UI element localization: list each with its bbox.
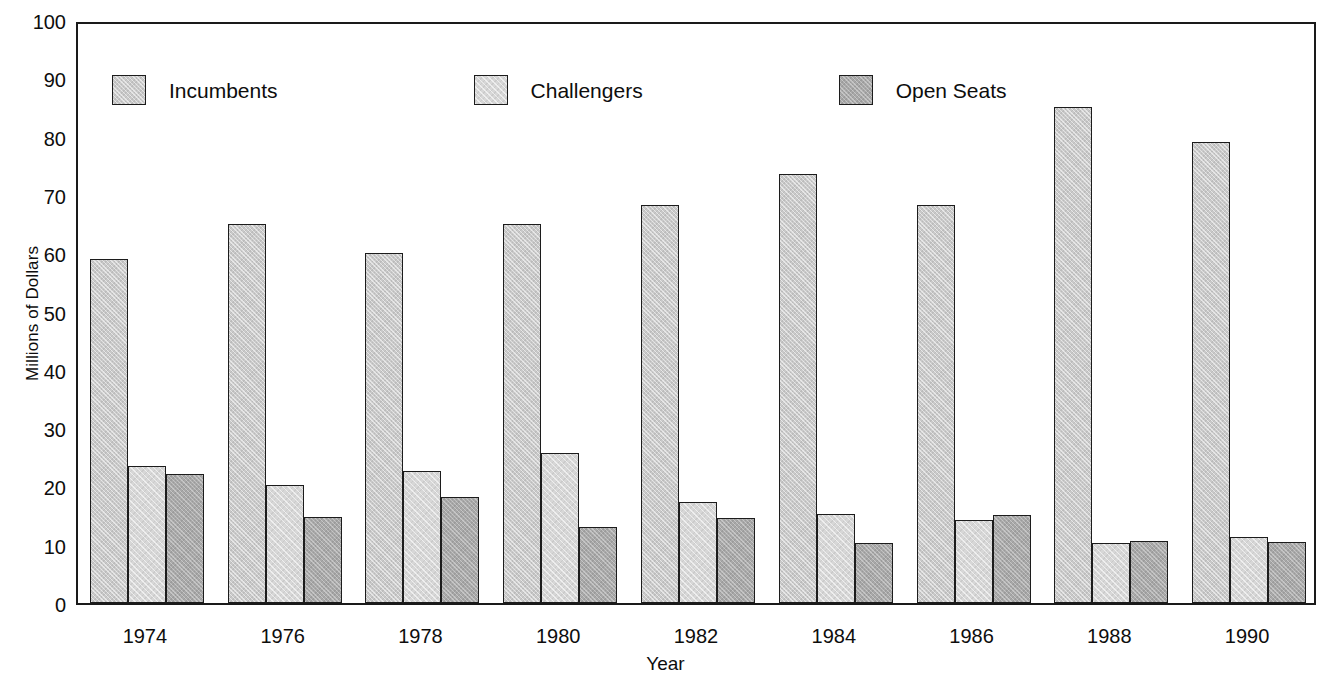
bar-incumbents-1986[interactable] (917, 205, 955, 603)
bar-group (1180, 24, 1318, 603)
bar-open-seats-1980[interactable] (579, 527, 617, 603)
bar-incumbents-1982[interactable] (641, 205, 679, 603)
x-tick-label: 1982 (674, 623, 719, 649)
bar-incumbents-1988[interactable] (1054, 107, 1092, 603)
bar-open-seats-1984[interactable] (855, 543, 893, 603)
y-tick-label: 80 (10, 129, 66, 149)
bar-challengers-1974[interactable] (128, 466, 166, 603)
bar-group (905, 24, 1043, 603)
bar-challengers-1980[interactable] (541, 453, 579, 603)
bar-challengers-1976[interactable] (266, 485, 304, 603)
x-tick-label: 1980 (536, 623, 581, 649)
bar-challengers-1984[interactable] (817, 514, 855, 603)
y-tick-label: 30 (10, 420, 66, 440)
x-tick-label: 1976 (260, 623, 305, 649)
x-tick-label: 1988 (1087, 623, 1132, 649)
bar-group (216, 24, 354, 603)
bar-open-seats-1982[interactable] (717, 518, 755, 603)
legend-item-challengers[interactable]: Challengers (474, 70, 643, 110)
x-axis-title: Year (0, 652, 1331, 676)
y-axis-tick-labels: 0102030405060708090100 (10, 0, 66, 682)
bar-group (78, 24, 216, 603)
y-tick-label: 50 (10, 304, 66, 324)
legend-swatch-icon (474, 75, 508, 105)
y-tick-label: 70 (10, 187, 66, 207)
bar-open-seats-1990[interactable] (1268, 542, 1306, 603)
x-tick-label: 1990 (1225, 623, 1270, 649)
bar-incumbents-1984[interactable] (779, 174, 817, 603)
bar-group (767, 24, 905, 603)
bar-group (1042, 24, 1180, 603)
bar-group (629, 24, 767, 603)
bar-challengers-1982[interactable] (679, 502, 717, 603)
x-axis-tick-labels: 197419761978198019821984198619881990 (76, 623, 1316, 653)
y-tick-label: 20 (10, 478, 66, 498)
legend-swatch-icon (112, 75, 146, 105)
legend-item-open-seats[interactable]: Open Seats (839, 70, 1007, 110)
bar-open-seats-1988[interactable] (1130, 541, 1168, 603)
bar-challengers-1990[interactable] (1230, 537, 1268, 603)
bar-incumbents-1976[interactable] (228, 224, 266, 603)
y-tick-label: 90 (10, 70, 66, 90)
bars-layer (78, 24, 1314, 603)
y-tick-label: 100 (10, 12, 66, 32)
legend-label: Open Seats (896, 80, 1007, 101)
legend-label: Challengers (531, 80, 643, 101)
bar-open-seats-1986[interactable] (993, 515, 1031, 603)
bar-open-seats-1974[interactable] (166, 474, 204, 603)
x-tick-label: 1974 (123, 623, 168, 649)
legend-item-incumbents[interactable]: Incumbents (112, 70, 278, 110)
bar-chart-figure: Millions of Dollars 01020304050607080901… (0, 0, 1331, 682)
bar-group (491, 24, 629, 603)
y-tick-label: 60 (10, 245, 66, 265)
bar-challengers-1988[interactable] (1092, 543, 1130, 603)
bar-open-seats-1976[interactable] (304, 517, 342, 603)
y-tick-label: 10 (10, 537, 66, 557)
bar-incumbents-1980[interactable] (503, 224, 541, 603)
bar-incumbents-1990[interactable] (1192, 142, 1230, 603)
y-tick-label: 0 (10, 595, 66, 615)
legend-label: Incumbents (169, 80, 278, 101)
bar-challengers-1978[interactable] (403, 471, 441, 603)
x-tick-label: 1984 (812, 623, 857, 649)
bar-incumbents-1974[interactable] (90, 259, 128, 603)
bar-open-seats-1978[interactable] (441, 497, 479, 603)
bar-group (354, 24, 492, 603)
x-tick-label: 1978 (398, 623, 443, 649)
bar-challengers-1986[interactable] (955, 520, 993, 603)
x-tick-label: 1986 (949, 623, 994, 649)
bar-incumbents-1978[interactable] (365, 253, 403, 603)
y-tick-label: 40 (10, 362, 66, 382)
legend-swatch-icon (839, 75, 873, 105)
legend: IncumbentsChallengersOpen Seats (112, 70, 1007, 110)
